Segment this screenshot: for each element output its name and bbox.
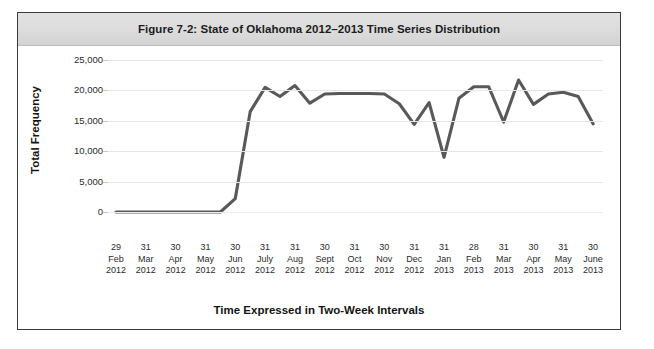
y-tick-label: 25,000: [51, 54, 103, 65]
x-axis-title: Time Expressed in Two-Week Intervals: [18, 304, 620, 316]
gridline: [108, 121, 603, 122]
y-tick-label: 15,000: [51, 115, 103, 126]
figure-title: Figure 7-2: State of Oklahoma 2012–2013 …: [138, 23, 500, 35]
y-tick-mark: [103, 60, 108, 61]
y-tick-label: 5,000: [51, 176, 103, 187]
y-tick-label: 20,000: [51, 84, 103, 95]
figure-panel: Figure 7-2: State of Oklahoma 2012–2013 …: [17, 12, 621, 330]
y-tick-label: 10,000: [51, 145, 103, 156]
y-tick-mark: [103, 182, 108, 183]
y-tick-mark: [103, 212, 108, 213]
x-tick-year: 2013: [573, 265, 613, 277]
y-tick-mark: [103, 121, 108, 122]
x-tick-label: 30June2013: [573, 242, 613, 277]
page-root: Figure 7-2: State of Oklahoma 2012–2013 …: [0, 0, 654, 349]
figure-title-bar: Figure 7-2: State of Oklahoma 2012–2013 …: [18, 13, 620, 46]
gridline: [108, 212, 603, 213]
y-tick-mark: [103, 90, 108, 91]
y-axis-title: Total Frequency: [29, 55, 41, 205]
gridline: [108, 151, 603, 152]
gridline: [108, 90, 603, 91]
plot-area: Total Frequency 05,00010,00015,00020,000…: [18, 46, 620, 329]
y-axis-tick-labels: 05,00010,00015,00020,00025,000: [51, 46, 103, 329]
y-tick-mark: [103, 151, 108, 152]
y-tick-label: 0: [51, 206, 103, 217]
gridline: [108, 182, 603, 183]
x-tick-day: 30: [573, 242, 613, 254]
gridline: [108, 60, 603, 61]
x-tick-month: June: [573, 254, 613, 266]
x-axis-tick-labels: 29Feb201231Mar201230Apr201231May201230Ju…: [108, 242, 603, 304]
